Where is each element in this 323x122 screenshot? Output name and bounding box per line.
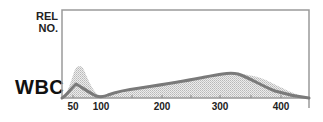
x-tick-label-300: 300 [212,101,229,112]
x-tick-label-400: 400 [273,101,290,112]
histogram-plot: 50 100 200 300 400 [0,0,323,122]
x-tick-label-200: 200 [154,101,171,112]
x-tick-label-50: 50 [67,101,79,112]
x-tick-label-100: 100 [93,101,110,112]
